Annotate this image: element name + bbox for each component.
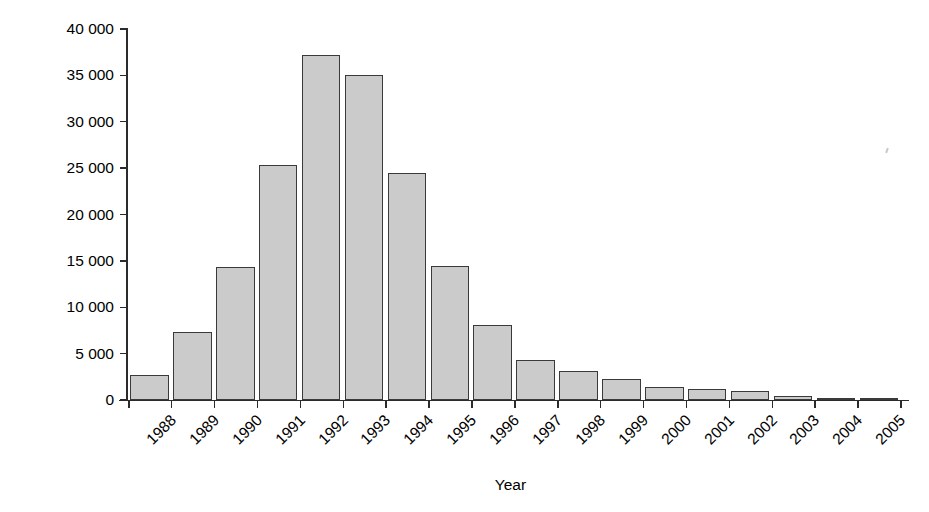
y-tick xyxy=(120,28,127,29)
x-tick xyxy=(343,400,345,408)
bar xyxy=(302,55,341,400)
x-tick xyxy=(514,400,516,408)
x-tick xyxy=(471,400,473,408)
bar xyxy=(345,75,384,400)
y-tick-label: 10 000 xyxy=(24,299,114,315)
plot-area xyxy=(128,29,900,400)
x-tick xyxy=(385,400,387,408)
bar xyxy=(431,266,470,400)
y-tick xyxy=(120,399,127,400)
x-tick xyxy=(600,400,602,408)
x-tick xyxy=(814,400,816,408)
x-tick xyxy=(772,400,774,408)
bar xyxy=(130,375,169,400)
x-tick xyxy=(857,400,859,408)
y-tick-label: 25 000 xyxy=(24,160,114,176)
y-tick-label: 0 xyxy=(24,392,114,408)
x-tick xyxy=(128,400,130,408)
y-tick-label: 15 000 xyxy=(24,253,114,269)
y-tick xyxy=(120,307,127,308)
y-tick xyxy=(120,214,127,215)
y-tick xyxy=(120,353,127,354)
x-tick xyxy=(557,400,559,408)
bar xyxy=(731,391,770,400)
x-tick xyxy=(214,400,216,408)
bar-chart: No. of cases 05 00010 00015 00020 00025 … xyxy=(0,0,929,512)
bar xyxy=(602,379,641,400)
y-tick-label: 35 000 xyxy=(24,67,114,83)
bar xyxy=(817,398,856,400)
x-tick xyxy=(428,400,430,408)
y-tick-label: 40 000 xyxy=(24,21,114,37)
x-tick xyxy=(171,400,173,408)
y-tick xyxy=(120,167,127,168)
y-tick xyxy=(120,75,127,76)
x-tick xyxy=(257,400,259,408)
bar xyxy=(216,267,255,400)
bar xyxy=(259,165,298,400)
x-tick xyxy=(900,400,902,408)
bar xyxy=(559,371,598,400)
x-axis-title: Year xyxy=(0,476,929,494)
y-tick-label: 30 000 xyxy=(24,114,114,130)
y-tick-label: 20 000 xyxy=(24,207,114,223)
bar xyxy=(688,389,727,400)
bar xyxy=(860,398,899,400)
x-axis-title-text: Year xyxy=(495,476,526,493)
y-tick xyxy=(120,260,127,261)
bar xyxy=(774,396,813,400)
bar xyxy=(516,360,555,400)
bar xyxy=(173,332,212,400)
x-tick xyxy=(729,400,731,408)
bar xyxy=(473,325,512,400)
x-tick xyxy=(686,400,688,408)
bar xyxy=(645,387,684,400)
x-tick xyxy=(643,400,645,408)
x-tick xyxy=(300,400,302,408)
y-tick xyxy=(120,121,127,122)
y-tick-label: 5 000 xyxy=(24,346,114,362)
bar xyxy=(388,173,427,400)
